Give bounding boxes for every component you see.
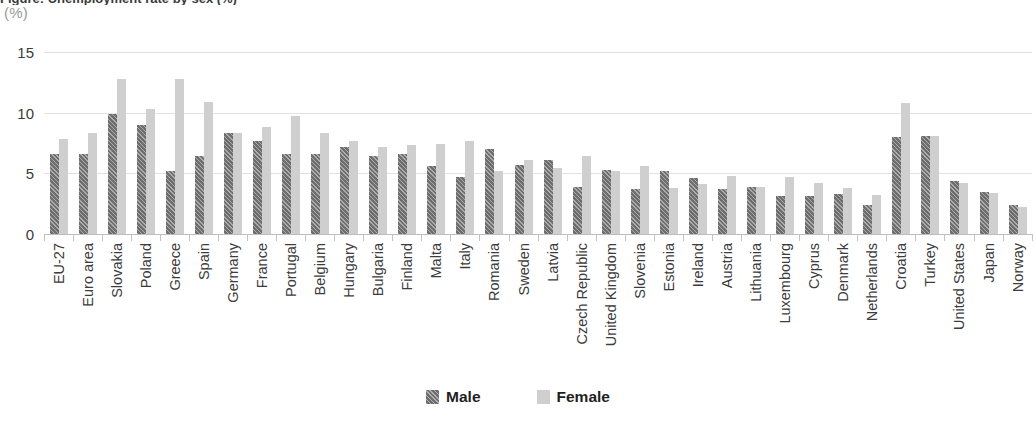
bar-female[interactable] — [233, 133, 242, 234]
x-axis-tick — [683, 234, 712, 241]
bar-female[interactable] — [349, 141, 358, 234]
bar-male[interactable] — [776, 196, 785, 234]
bar-female[interactable] — [756, 187, 765, 234]
bar-male[interactable] — [515, 165, 524, 234]
bar-group — [858, 52, 887, 234]
x-axis-tick — [887, 234, 916, 241]
bar-male[interactable] — [311, 154, 320, 234]
bar-female[interactable] — [524, 160, 533, 234]
bar-female[interactable] — [320, 133, 329, 234]
bar-male[interactable] — [631, 189, 640, 234]
bar-male[interactable] — [1009, 205, 1018, 234]
x-axis-label-cell: Hungary — [335, 243, 364, 373]
bar-male[interactable] — [834, 194, 843, 234]
bar-male[interactable] — [282, 154, 291, 234]
bar-female[interactable] — [1018, 207, 1027, 234]
bar-male[interactable] — [340, 147, 349, 234]
bar-female[interactable] — [465, 141, 474, 234]
bar-female[interactable] — [698, 184, 707, 234]
bar-female[interactable] — [582, 156, 591, 234]
bar-female[interactable] — [901, 103, 910, 234]
bar-male[interactable] — [863, 205, 872, 234]
bar-male[interactable] — [253, 141, 262, 234]
bar-female[interactable] — [175, 79, 184, 234]
x-axis-tick — [218, 234, 247, 241]
x-axis-label-luxembourg: Luxembourg — [778, 243, 793, 324]
x-axis-tick — [422, 234, 451, 241]
bar-male[interactable] — [544, 160, 553, 234]
bar-group — [654, 52, 683, 234]
bar-male[interactable] — [427, 166, 436, 234]
x-axis-label-spain: Spain — [197, 243, 212, 280]
x-axis-label-latvia: Latvia — [545, 243, 560, 282]
bar-male[interactable] — [747, 187, 756, 234]
bar-group — [712, 52, 741, 234]
x-axis-tick — [364, 234, 393, 241]
bar-female[interactable] — [843, 188, 852, 234]
bar-female[interactable] — [640, 166, 649, 234]
bar-male[interactable] — [980, 192, 989, 234]
bar-female[interactable] — [930, 136, 939, 234]
bar-group — [742, 52, 771, 234]
bar-male[interactable] — [398, 154, 407, 234]
bar-female[interactable] — [204, 102, 213, 234]
bar-female[interactable] — [611, 171, 620, 234]
bar-male[interactable] — [108, 114, 117, 234]
bar-male[interactable] — [50, 154, 59, 234]
bar-female[interactable] — [378, 147, 387, 234]
legend-item-female[interactable]: Female — [537, 388, 610, 406]
x-axis-tick — [829, 234, 858, 241]
bar-male[interactable] — [485, 149, 494, 234]
x-axis-label-cell: Latvia — [538, 243, 567, 373]
bar-male[interactable] — [456, 177, 465, 234]
bar-female[interactable] — [785, 177, 794, 234]
bar-female[interactable] — [88, 133, 97, 234]
bar-group — [625, 52, 654, 234]
bar-female[interactable] — [669, 188, 678, 234]
bar-male[interactable] — [369, 156, 378, 234]
bar-group — [887, 52, 916, 234]
bar-female[interactable] — [436, 144, 445, 234]
x-axis-label-cell: Cyprus — [800, 243, 829, 373]
bar-male[interactable] — [79, 154, 88, 234]
bar-female[interactable] — [814, 183, 823, 234]
bar-female[interactable] — [553, 168, 562, 234]
x-axis-label-cell: Bulgaria — [364, 243, 393, 373]
bar-female[interactable] — [262, 127, 271, 234]
x-axis-label-cell: Norway — [1003, 243, 1032, 373]
bar-male[interactable] — [224, 133, 233, 234]
bar-female[interactable] — [959, 183, 968, 234]
bar-male[interactable] — [805, 196, 814, 234]
x-axis-label-cell: Lithuania — [742, 243, 771, 373]
bar-female[interactable] — [59, 139, 68, 234]
bar-male[interactable] — [689, 178, 698, 234]
bar-female[interactable] — [872, 195, 881, 234]
bar-female[interactable] — [291, 116, 300, 234]
bar-male[interactable] — [602, 170, 611, 234]
bar-female[interactable] — [727, 176, 736, 234]
x-axis-label-hungary: Hungary — [342, 243, 357, 298]
legend-item-male[interactable]: Male — [426, 388, 480, 406]
x-axis-label-cell: Sweden — [509, 243, 538, 373]
bar-female[interactable] — [407, 145, 416, 234]
bar-male[interactable] — [718, 189, 727, 234]
bar-series-container — [44, 52, 1032, 234]
x-axis-tick — [393, 234, 422, 241]
x-axis-tick — [945, 234, 974, 241]
x-axis-label-bulgaria: Bulgaria — [371, 243, 386, 296]
bar-male[interactable] — [921, 136, 930, 234]
bar-male[interactable] — [950, 181, 959, 234]
bar-male[interactable] — [195, 156, 204, 234]
bar-male[interactable] — [660, 171, 669, 234]
x-axis-label-cell: Austria — [712, 243, 741, 373]
bar-female[interactable] — [117, 79, 126, 234]
x-axis-label-cell: Turkey — [916, 243, 945, 373]
bar-male[interactable] — [892, 137, 901, 234]
x-axis-tick — [625, 234, 654, 241]
bar-male[interactable] — [573, 187, 582, 234]
bar-female[interactable] — [989, 193, 998, 234]
bar-male[interactable] — [137, 125, 146, 234]
bar-female[interactable] — [146, 109, 155, 234]
bar-female[interactable] — [494, 171, 503, 234]
bar-male[interactable] — [166, 171, 175, 234]
